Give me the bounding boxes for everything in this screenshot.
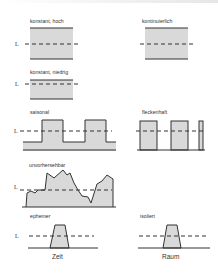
panel-label: fleckenhaft — [142, 109, 168, 115]
level-label: L — [15, 41, 19, 47]
panel-konstant-niedrig: konstant, niedrig L — [15, 69, 81, 99]
panel-ephemer: ephemer L Zeit — [15, 213, 98, 260]
panel-label: isoliert — [140, 213, 156, 219]
level-label: L — [14, 184, 18, 190]
panel-label: kontinuierlich — [142, 18, 172, 24]
axis-label-zeit: Zeit — [52, 253, 63, 260]
habitat-pattern-diagram: konstant, hoch L kontinuierlich konstant… — [0, 0, 218, 276]
level-label: L — [14, 128, 18, 134]
area-fill — [145, 28, 188, 59]
area-fill — [30, 28, 73, 59]
panel-fleckenhaft: fleckenhaft — [136, 109, 206, 150]
patch — [199, 121, 203, 150]
irregular-area — [26, 170, 113, 207]
patch — [140, 121, 157, 150]
panel-label: unvorhersehbar — [29, 162, 66, 168]
axis-label-raum: Raum — [162, 253, 179, 260]
level-label: L — [15, 81, 19, 87]
panel-unvorhersehbar: unvorhersehbar L — [14, 162, 116, 207]
panel-saisonal: saisonal L — [14, 109, 116, 151]
panel-label: konstant, niedrig — [30, 69, 68, 75]
patch-shape — [163, 225, 181, 248]
panel-kontinuierlich: kontinuierlich — [140, 18, 196, 59]
panel-label: ephemer — [30, 213, 51, 219]
level-label: L — [15, 233, 19, 239]
panel-label: konstant, hoch — [30, 18, 64, 24]
panel-label: saisonal — [30, 109, 49, 115]
patch — [171, 121, 188, 150]
seasonal-area — [23, 120, 116, 151]
panel-konstant-hoch: konstant, hoch L — [15, 18, 81, 59]
area-fill — [30, 80, 73, 99]
panel-isoliert: isoliert Raum — [138, 213, 210, 260]
